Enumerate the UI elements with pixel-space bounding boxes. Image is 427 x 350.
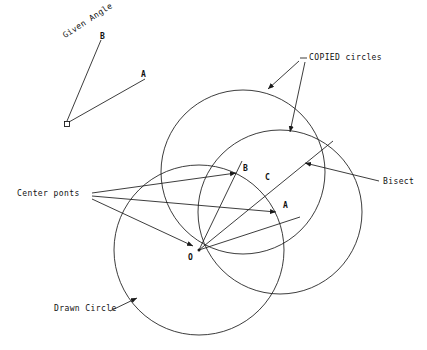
point-label-A-top: A [141,71,146,79]
center-dot-O [198,249,201,252]
point-label-O: O [188,254,193,262]
point-label-C: C [265,174,270,182]
point-label-B: B [243,165,248,173]
angle-vertex-square [65,122,70,127]
ray-O-to-A [199,217,300,250]
point-label-B-top: B [100,33,105,41]
drawn-circle-label: Drawn Circle [54,305,117,313]
leader-center-points-to-O [92,199,193,246]
copied-circles-label: COPIED circles [309,54,382,62]
angle-ray-to-B [67,40,101,121]
diagram-page: Given Angle B A COPIED circles Bisect Ce… [0,0,427,350]
leader-center-points-to-B [92,173,236,193]
center-points-label: Center ponts [17,190,80,198]
point-label-A: A [283,202,288,210]
leader-bisect [305,163,379,181]
bisect-label: Bisect [383,178,414,186]
angle-ray-to-A [69,79,145,122]
leader-copied-to-circle-A [290,62,305,132]
leader-copied-to-circle-B [268,61,299,89]
copied-circle-A [198,130,362,294]
leader-center-points-to-A [92,196,276,212]
